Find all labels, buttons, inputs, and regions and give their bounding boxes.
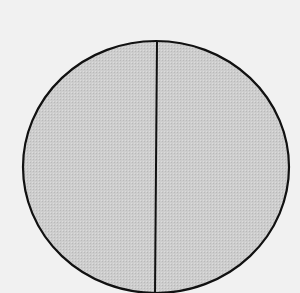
pie-chart xyxy=(0,0,300,293)
